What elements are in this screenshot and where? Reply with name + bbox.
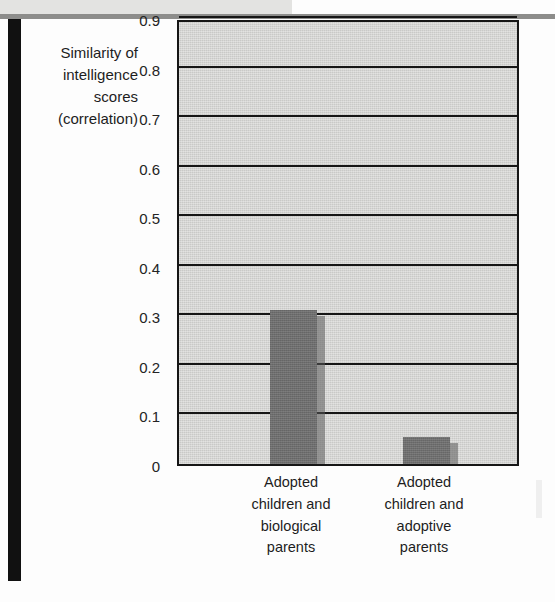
x-axis-category-label: Adoptedchildren andbiologicalparents <box>221 472 361 559</box>
y-axis-tick-label: 0.7 <box>139 112 160 127</box>
x-axis-category-label-line: parents <box>221 537 361 559</box>
x-axis-category-label-line: children and <box>221 494 361 516</box>
y-axis-tick-label: 0.8 <box>139 62 160 77</box>
x-axis-category-label-line: biological <box>221 516 361 538</box>
x-axis-category-label-line: adoptive <box>354 516 494 538</box>
x-axis-category-label-line: Adopted <box>354 472 494 494</box>
plot-area <box>177 20 519 466</box>
y-axis-tick-label: 0.4 <box>139 260 160 275</box>
y-axis-tick-label: 0 <box>152 459 160 474</box>
y-axis-tick-label: 0.2 <box>139 359 160 374</box>
y-axis-tick-label: 0.9 <box>139 13 160 28</box>
x-axis-category-label-line: parents <box>354 537 494 559</box>
page-right-smudge <box>536 480 542 518</box>
bar[interactable] <box>403 437 450 464</box>
x-axis-category-labels: Adoptedchildren andbiologicalparentsAdop… <box>177 472 519 582</box>
y-axis-tick-labels: 0.90.80.70.60.50.40.30.20.10 <box>0 20 172 466</box>
y-axis-tick-label: 0.6 <box>139 161 160 176</box>
y-axis-tick-label: 0.1 <box>139 409 160 424</box>
bar[interactable] <box>270 310 317 464</box>
gridline <box>179 16 517 18</box>
scanned-figure-page: Similarity of intelligence scores (corre… <box>0 0 555 602</box>
bar-fill <box>270 310 317 464</box>
x-axis-category-label-line: children and <box>354 494 494 516</box>
bar-fill <box>403 437 450 464</box>
x-axis-category-label: Adoptedchildren andadoptiveparents <box>354 472 494 559</box>
x-axis-category-label-line: Adopted <box>221 472 361 494</box>
y-axis-tick-label: 0.3 <box>139 310 160 325</box>
y-axis-tick-label: 0.5 <box>139 211 160 226</box>
bars-layer <box>179 22 517 464</box>
